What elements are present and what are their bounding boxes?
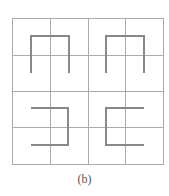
grid-figure [0,0,169,196]
figure-caption: (b) [0,172,169,187]
bracket-shapes [31,36,144,145]
grid-lines [12,18,164,165]
shape-bottom-left-bracket [31,108,68,145]
